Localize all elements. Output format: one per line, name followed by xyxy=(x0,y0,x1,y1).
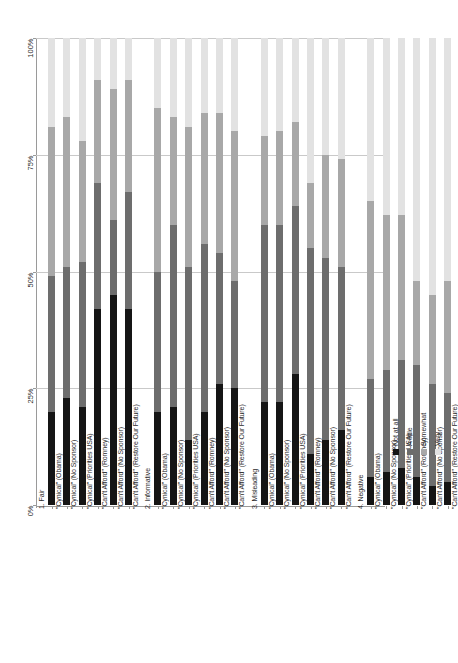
x-axis-tick-label: "Can't Afford" (No Sponsor) xyxy=(117,427,124,509)
bar-segment-very xyxy=(444,38,451,281)
bar-segment-somewhat xyxy=(154,108,161,271)
bar-segment-a-little xyxy=(307,248,314,453)
bar-segment-not-at-all xyxy=(110,295,117,505)
bar-segment-a-little xyxy=(276,225,283,402)
bar-segment-a-little xyxy=(154,272,161,412)
x-tick-mark xyxy=(235,506,236,509)
x-axis-tick-label: "Can't Afford" (Romney) xyxy=(314,437,321,509)
x-axis-tick-label: "Can't Afford" (Romney) xyxy=(208,437,215,509)
bar-column xyxy=(94,38,101,505)
bar-segment-very xyxy=(292,38,299,122)
x-axis-group-label: 3. Misleading xyxy=(251,469,258,509)
x-tick-mark xyxy=(173,506,174,509)
bar-segment-somewhat xyxy=(185,127,192,267)
bar-segment-very xyxy=(201,38,208,113)
bar-segment-somewhat xyxy=(292,122,299,206)
bar-segment-somewhat xyxy=(201,113,208,244)
y-tick-label: 75% xyxy=(26,155,35,185)
bar-segment-not-at-all xyxy=(398,468,405,505)
legend-swatch xyxy=(421,449,427,455)
legend-item: A little xyxy=(406,427,413,455)
bar-segment-a-little xyxy=(292,206,299,374)
bar-segment-very xyxy=(154,38,161,108)
bar-segment-somewhat xyxy=(170,117,177,224)
x-axis-tick-label: "Cynical" (Obama) xyxy=(374,453,381,509)
bar-segment-a-little xyxy=(48,276,55,411)
x-axis-group-label: 1. Fair xyxy=(38,490,45,509)
bar-segment-somewhat xyxy=(79,141,86,262)
x-axis-tick-label: "Cynical" (No Sponsor) xyxy=(70,440,77,509)
x-tick-mark xyxy=(371,506,372,509)
x-axis-tick-label: "Can't Afford" (Restore Our Future) xyxy=(451,404,458,509)
bar-segment-a-little xyxy=(322,258,329,440)
bar-column xyxy=(307,38,314,505)
bar-segment-somewhat xyxy=(94,80,101,183)
bar-column xyxy=(170,38,177,505)
x-tick-mark xyxy=(280,506,281,509)
x-axis-tick-label: "Cynical" (Priorities USA) xyxy=(192,434,199,510)
bar-segment-a-little xyxy=(125,192,132,309)
x-tick-mark xyxy=(448,506,449,509)
x-tick-mark xyxy=(113,506,114,509)
bar-segment-not-at-all xyxy=(383,472,390,505)
legend-swatch xyxy=(407,449,413,455)
bar-column xyxy=(216,38,223,505)
legend-label: Not at all xyxy=(392,418,399,446)
bar-segment-somewhat xyxy=(429,295,436,384)
bar-segment-very xyxy=(429,38,436,295)
legend-item: Very xyxy=(434,432,441,455)
y-tick-label: 50% xyxy=(26,272,35,302)
x-tick-mark xyxy=(220,506,221,509)
x-axis-tick-label: "Can't Afford" (No Sponsor) xyxy=(223,427,230,509)
bar-segment-a-little xyxy=(261,225,268,402)
bar-segment-not-at-all xyxy=(429,486,436,505)
bar-column xyxy=(154,38,161,505)
x-axis-tick-label: "Can't Afford" (Romney) xyxy=(101,437,108,509)
bar-segment-very xyxy=(398,38,405,215)
legend-item: Somewhat xyxy=(420,413,427,455)
bar-segment-very xyxy=(216,38,223,113)
x-axis-tick-label: "Cynical" (Obama) xyxy=(161,453,168,509)
x-axis-tick-label: "Can't Afford" (Restore Our Future) xyxy=(132,404,139,509)
x-tick-mark xyxy=(432,506,433,509)
bar-segment-very xyxy=(110,38,117,89)
bar-segment-somewhat xyxy=(322,155,329,258)
bar-segment-somewhat xyxy=(125,80,132,192)
bar-segment-not-at-all xyxy=(292,374,299,505)
x-axis-tick-label: "Can't Afford" (No Sponsor) xyxy=(329,427,336,509)
legend-label: Somewhat xyxy=(420,413,427,446)
bar-segment-not-at-all xyxy=(201,412,208,505)
x-tick-mark xyxy=(341,506,342,509)
bar-segment-very xyxy=(367,38,374,201)
bar-segment-somewhat xyxy=(444,281,451,393)
bar-segment-very xyxy=(276,38,283,131)
bar-segment-not-at-all xyxy=(79,407,86,505)
x-tick-mark xyxy=(67,506,68,509)
x-axis-group-label: 4. Negative xyxy=(357,475,364,509)
legend-swatch xyxy=(393,449,399,455)
x-tick-mark xyxy=(417,506,418,509)
bar-segment-somewhat xyxy=(398,215,405,360)
bar-segment-very xyxy=(63,38,70,117)
x-tick-mark xyxy=(204,506,205,509)
y-tick-label: 100% xyxy=(26,39,35,69)
bar-segment-a-little xyxy=(231,281,238,388)
bar-segment-very xyxy=(322,38,329,155)
bar-column xyxy=(63,38,70,505)
bar-segment-a-little xyxy=(63,267,70,398)
x-tick-mark xyxy=(82,506,83,509)
legend-label: Very xyxy=(434,432,441,446)
bar-segment-somewhat xyxy=(383,215,390,369)
y-tick-label: 0% xyxy=(26,506,35,536)
x-tick-mark xyxy=(98,506,99,509)
bar-segment-very xyxy=(185,38,192,127)
bar-segment-a-little xyxy=(201,244,208,412)
bar-segment-somewhat xyxy=(216,113,223,253)
x-tick-mark xyxy=(129,506,130,509)
bar-segment-not-at-all xyxy=(338,430,345,505)
x-axis-group-label: 2. Informative xyxy=(144,468,151,509)
x-axis-tick-label: "Cynical" (Priorities USA) xyxy=(299,434,306,510)
x-tick-mark xyxy=(326,506,327,509)
bar-segment-somewhat xyxy=(307,183,314,248)
x-tick-mark xyxy=(158,506,159,509)
